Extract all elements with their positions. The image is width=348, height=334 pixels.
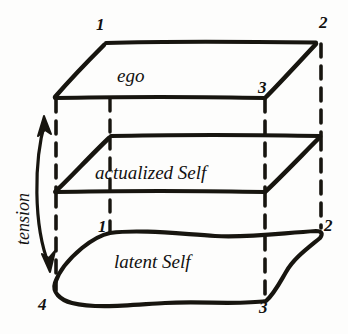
- corner-label-blob-back-right: 2: [324, 217, 333, 234]
- corner-label-blob-front-left: 4: [38, 296, 47, 313]
- corner-label-top-front-right: 3: [258, 79, 267, 96]
- edge-middle-back: [111, 135, 320, 136]
- edge-top-back-1-to-2: [106, 42, 316, 43]
- diagram-canvas: 1 2 3 ego actualized Self latent Self 1 …: [0, 0, 348, 334]
- edge-middle-right-oblique: [266, 138, 319, 191]
- edge-ego-front-top: [55, 97, 265, 98]
- tension-arrowhead-down: [42, 251, 55, 272]
- edge-top-left-oblique: [55, 45, 104, 97]
- corner-label-blob-front-right: 3: [259, 299, 268, 316]
- corner-label-top-back-right: 2: [319, 14, 328, 31]
- tension-label: tension: [14, 193, 32, 245]
- edge-middle-front: [55, 191, 265, 192]
- region-label-actualized-self: actualized Self: [95, 163, 206, 182]
- corner-label-top-back-left: 1: [96, 16, 105, 33]
- edge-top-right-oblique: [266, 44, 316, 97]
- region-label-ego: ego: [117, 66, 144, 85]
- tension-arrow-shaft: [37, 122, 49, 265]
- tension-arrowhead-up: [38, 116, 51, 136]
- region-label-latent-self: latent Self: [114, 252, 191, 271]
- corner-label-blob-back-left: 1: [98, 218, 107, 235]
